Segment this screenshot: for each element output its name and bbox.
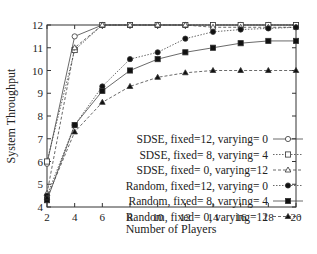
y-tick-label: 5	[38, 178, 44, 190]
y-tick-label: 11	[32, 42, 43, 54]
x-tick-label: 4	[72, 211, 78, 223]
filled-triangle-marker	[210, 68, 216, 73]
x-tick-label: 2	[44, 211, 50, 223]
filled-circle-marker	[155, 50, 160, 55]
filled-square-marker	[285, 198, 290, 203]
x-tick-label: 6	[100, 211, 106, 223]
filled-circle-marker	[293, 25, 298, 30]
filled-circle-marker	[210, 29, 215, 34]
y-tick-label: 6	[38, 156, 44, 168]
legend-label: Random, fixed= 8, varying= 4	[129, 195, 269, 208]
filled-triangle-marker	[183, 70, 189, 75]
filled-circle-marker	[266, 26, 271, 31]
x-tick-label: 20	[291, 211, 303, 223]
filled-square-marker	[266, 38, 271, 43]
filled-square-marker	[183, 50, 188, 55]
filled-square-marker	[155, 57, 160, 62]
legend-label: SDSE, fixed= 0, varying=12	[137, 164, 269, 177]
filled-square-marker	[100, 88, 105, 93]
filled-circle-marker	[285, 183, 290, 188]
filled-circle-marker	[183, 36, 188, 41]
y-tick-label: 10	[32, 65, 44, 77]
y-tick-label: 7	[38, 133, 44, 145]
filled-square-marker	[238, 41, 243, 46]
filled-triangle-marker	[238, 68, 244, 73]
filled-circle-marker	[127, 57, 132, 62]
legend-label: SDSE, fixed= 8, varying= 4	[139, 149, 268, 162]
open-circle-marker	[285, 136, 290, 141]
y-tick-label: 9	[38, 87, 44, 99]
y-tick-label: 8	[38, 110, 44, 122]
legend: SDSE, fixed=12, varying= 0SDSE, fixed= 8…	[126, 133, 303, 224]
line-chart: 2468101214161820456789101112 SDSE, fixed…	[0, 0, 317, 254]
filled-circle-marker	[238, 27, 243, 32]
legend-label: Random, fixed=12, varying= 0	[126, 180, 269, 193]
open-triangle-marker	[285, 167, 291, 172]
open-circle-marker	[72, 34, 77, 39]
series-4	[44, 38, 298, 202]
y-tick-label: 4	[38, 201, 44, 213]
filled-square-marker	[293, 38, 298, 43]
filled-square-marker	[127, 68, 132, 73]
filled-square-marker	[72, 123, 77, 128]
filled-triangle-marker	[100, 99, 106, 104]
open-square-marker	[285, 152, 290, 157]
filled-triangle-marker	[266, 68, 272, 73]
y-axis-label: System Throughput	[4, 68, 18, 163]
filled-square-marker	[210, 45, 215, 50]
open-square-marker	[44, 159, 49, 164]
y-tick-label: 12	[32, 19, 43, 31]
legend-label: SDSE, fixed=12, varying= 0	[137, 133, 269, 146]
x-axis-label: Number of Players	[126, 222, 217, 236]
